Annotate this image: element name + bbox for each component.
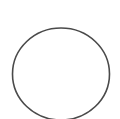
circle-graphic bbox=[0, 0, 120, 119]
circle-outline-icon bbox=[13, 28, 110, 119]
drawing-canvas bbox=[0, 0, 120, 119]
